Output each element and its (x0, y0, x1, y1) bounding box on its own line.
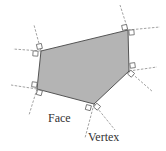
face-label: Face (48, 112, 71, 124)
vertex-label: Vertex (88, 131, 119, 143)
face-polygon (37, 30, 129, 104)
diagram-canvas (0, 0, 166, 151)
